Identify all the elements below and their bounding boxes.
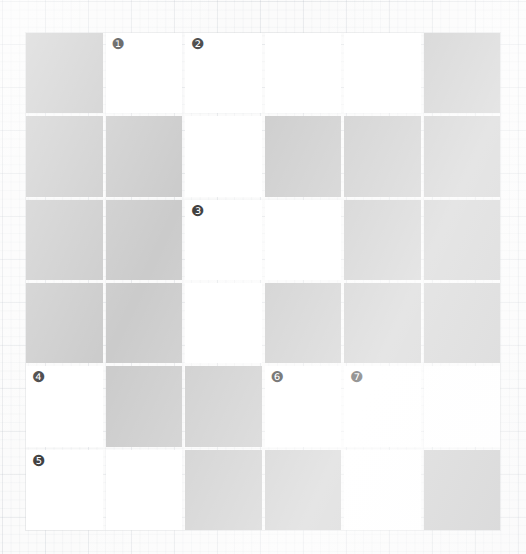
grid-cell-open[interactable] (106, 450, 183, 530)
clue-number: ❹ (32, 370, 45, 385)
grid-cell-open[interactable] (185, 116, 262, 196)
grid-cell-block (185, 366, 262, 446)
grid-cell-open[interactable] (185, 283, 262, 363)
grid-cell-block (26, 283, 103, 363)
grid-cell-block (265, 283, 342, 363)
grid-cell-block (424, 200, 501, 280)
grid-cell-open[interactable]: ❺ (26, 450, 103, 530)
grid-cell-block (424, 283, 501, 363)
grid-cell-block (26, 33, 103, 113)
grid-cell-block (106, 116, 183, 196)
grid-cell-open[interactable]: ❸ (185, 200, 262, 280)
grid-cell-block (344, 283, 421, 363)
grid-cell-open[interactable]: ❼ (344, 366, 421, 446)
grid-cell-block (106, 366, 183, 446)
clue-number: ❻ (271, 370, 284, 385)
grid-cell-open[interactable] (344, 450, 421, 530)
grid-cell-block (106, 200, 183, 280)
grid-cell-block (265, 116, 342, 196)
grid-cell-block (344, 116, 421, 196)
grid-cell-open[interactable] (265, 200, 342, 280)
grid-cell-block (424, 116, 501, 196)
clue-number: ❼ (350, 370, 363, 385)
clue-number: ❶ (112, 37, 125, 52)
grid-cell-open[interactable]: ❶ (106, 33, 183, 113)
clue-number: ❸ (191, 204, 204, 219)
grid-cell-block (26, 116, 103, 196)
grid-cell-block (185, 450, 262, 530)
grid-cell-block (265, 450, 342, 530)
grid-cell-open[interactable]: ❹ (26, 366, 103, 446)
grid-cell-block (424, 450, 501, 530)
clue-number: ❺ (32, 454, 45, 469)
grid-cell-block (424, 33, 501, 113)
crossword-grid[interactable]: ❶❷❸❹❻❼❺ (26, 33, 500, 530)
clue-number: ❷ (191, 37, 204, 52)
grid-cell-open[interactable]: ❷ (185, 33, 262, 113)
grid-cell-block (344, 200, 421, 280)
grid-cell-open[interactable] (424, 366, 501, 446)
grid-cell-open[interactable]: ❻ (265, 366, 342, 446)
grid-cell-open[interactable] (344, 33, 421, 113)
grid-cell-open[interactable] (265, 33, 342, 113)
grid-cell-block (106, 283, 183, 363)
grid-cell-block (26, 200, 103, 280)
